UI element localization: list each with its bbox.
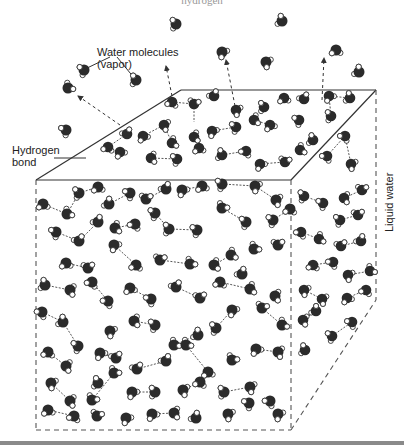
water-molecule bbox=[193, 143, 206, 154]
water-molecule bbox=[351, 209, 364, 220]
hydrogen-atom bbox=[229, 313, 234, 318]
water-molecule bbox=[105, 326, 118, 339]
water-molecule bbox=[188, 98, 201, 110]
hydrogen-atom bbox=[193, 149, 198, 154]
hydrogen-atom bbox=[239, 216, 244, 221]
hydrogen-atom bbox=[264, 65, 269, 70]
water-molecule bbox=[334, 240, 347, 252]
hydrogen-atom bbox=[301, 343, 306, 348]
water-molecule bbox=[143, 294, 156, 307]
water-molecule bbox=[359, 285, 372, 297]
hydrogen-atom bbox=[176, 280, 181, 285]
water-molecule bbox=[63, 80, 76, 93]
water-molecule bbox=[343, 270, 355, 283]
water-molecule bbox=[147, 409, 160, 422]
water-molecule bbox=[329, 45, 343, 56]
hydrogen-atom bbox=[262, 398, 267, 403]
water-molecule bbox=[345, 317, 358, 330]
hydrogen-atom bbox=[117, 351, 122, 356]
water-molecule bbox=[170, 17, 181, 31]
water-molecule bbox=[262, 396, 275, 409]
water-molecule bbox=[100, 296, 113, 309]
water-molecule bbox=[319, 151, 332, 164]
hydrogen-atom bbox=[325, 98, 330, 103]
water-molecule bbox=[249, 113, 261, 126]
hydrogen-atom bbox=[256, 166, 261, 171]
hydrogen-atom bbox=[255, 121, 260, 126]
hydrogen-atom bbox=[195, 138, 200, 143]
vapor-label-line1: Water molecules bbox=[97, 46, 179, 58]
water-molecule bbox=[159, 119, 171, 132]
hydrogen-atom bbox=[163, 222, 168, 227]
water-molecule bbox=[71, 234, 84, 247]
water-molecule bbox=[191, 327, 204, 340]
water-molecule bbox=[295, 142, 307, 155]
hydrogen-atom bbox=[316, 198, 321, 203]
water-molecule bbox=[91, 182, 105, 194]
water-molecule bbox=[306, 260, 319, 271]
water-molecule bbox=[109, 365, 122, 378]
hydrogen-atom bbox=[344, 200, 349, 205]
water-molecule bbox=[325, 257, 338, 270]
hydrogen-atom bbox=[304, 92, 309, 97]
hydrogen-atom bbox=[127, 222, 132, 227]
water-molecule bbox=[110, 220, 122, 233]
water-molecule bbox=[217, 201, 230, 214]
water-molecule bbox=[196, 181, 210, 193]
hydrogen-atom bbox=[69, 213, 74, 218]
hydrogen-atom bbox=[70, 86, 75, 91]
hydrogen-atom bbox=[122, 189, 127, 194]
hydrogen-atom bbox=[251, 290, 256, 295]
hydrogen-atom bbox=[149, 385, 154, 390]
hydrogen-atom bbox=[130, 73, 135, 78]
water-molecule bbox=[206, 89, 219, 102]
hydrogen-atom bbox=[77, 64, 82, 69]
water-molecule bbox=[353, 234, 366, 247]
hydrogen-atom bbox=[41, 277, 46, 282]
water-molecule bbox=[115, 147, 128, 159]
water-molecule bbox=[130, 73, 141, 87]
hydrogen-atom bbox=[359, 289, 364, 294]
water-molecule bbox=[209, 258, 221, 272]
hydrogen-atom bbox=[210, 322, 215, 327]
water-molecule bbox=[324, 91, 337, 104]
water-molecule bbox=[245, 382, 258, 395]
water-molecule bbox=[77, 64, 89, 77]
hydrogen-atom bbox=[174, 415, 179, 420]
water-molecule bbox=[239, 216, 251, 229]
water-molecule bbox=[148, 208, 161, 221]
hydrogen-atom bbox=[60, 314, 65, 319]
hydrogen-atom bbox=[320, 301, 325, 306]
water-molecule bbox=[273, 346, 285, 360]
hydrogen-atom bbox=[91, 188, 96, 193]
hydrogen-atom bbox=[275, 417, 280, 422]
water-molecule bbox=[177, 185, 190, 198]
cube-outline bbox=[36, 90, 376, 430]
water-molecule bbox=[178, 384, 190, 397]
hydrogen-atom bbox=[265, 127, 270, 132]
water-molecule bbox=[339, 192, 350, 205]
water-molecule bbox=[325, 331, 337, 344]
hydrogen-atom bbox=[143, 295, 148, 300]
water-molecule bbox=[292, 115, 304, 128]
water-molecule bbox=[293, 227, 306, 239]
water-molecule bbox=[146, 151, 157, 164]
water-molecule bbox=[279, 156, 292, 167]
water-molecule bbox=[41, 347, 55, 359]
water-molecule bbox=[73, 187, 85, 201]
hydrogen-atom bbox=[229, 122, 234, 127]
hydrogen-atom bbox=[128, 394, 133, 399]
water-molecule bbox=[129, 314, 140, 328]
water-molecule bbox=[343, 91, 355, 104]
hydrogen-atom bbox=[342, 240, 347, 245]
hydrogen-atom bbox=[213, 282, 218, 287]
hydrogen-atom bbox=[34, 309, 39, 314]
water-molecule bbox=[59, 125, 72, 138]
water-molecule bbox=[255, 159, 268, 172]
water-molecule bbox=[229, 122, 241, 135]
water-molecule bbox=[163, 222, 174, 236]
hydrogen-atom bbox=[137, 362, 142, 367]
water-molecule bbox=[270, 289, 281, 303]
hydrogen-atom bbox=[359, 209, 364, 214]
water-molecule bbox=[355, 184, 368, 195]
